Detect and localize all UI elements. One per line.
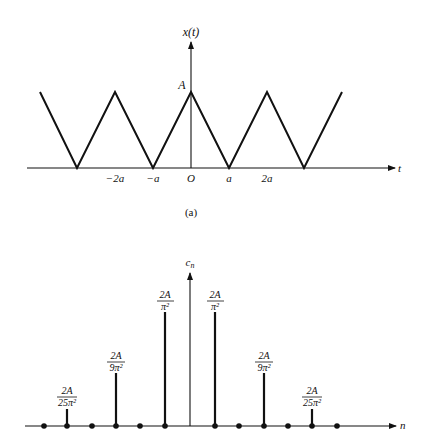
point-n-plus-5 (309, 423, 315, 429)
cn-axis-label: cn (186, 256, 195, 270)
point-n-minus-4 (89, 423, 95, 429)
fraction-numerator: 2A (306, 385, 318, 396)
tick-label-origin: O (187, 172, 195, 184)
point-n-plus-3 (261, 423, 267, 429)
fraction-denominator: π² (211, 301, 220, 312)
amplitude-label: A (177, 78, 186, 92)
figure-canvas: t x(t) A −2a −a O a 2a (a) n cn (0, 0, 428, 431)
point-n-minus-5 (64, 423, 70, 429)
stem-label-n-plus-5: 2A 25π² (302, 385, 322, 408)
point-n-minus-1 (162, 423, 168, 429)
point-n-plus-2 (236, 423, 242, 429)
t-axis-label: t (398, 162, 402, 174)
figure-a-caption: (a) (185, 206, 198, 219)
stem-label-n-minus-5: 2A 25π² (57, 385, 77, 408)
fraction-denominator: 25π² (58, 397, 77, 408)
figure-a-triangle-wave: t x(t) A −2a −a O a 2a (a) (27, 25, 402, 219)
figure-b-line-spectrum: n cn 2A (25, 256, 406, 431)
point-n-plus-4 (285, 423, 291, 429)
tick-label-minus-2a: −2a (106, 172, 125, 184)
point-n-minus-2 (137, 423, 143, 429)
tick-label-minus-a: −a (147, 172, 160, 184)
point-n-minus-6 (41, 423, 47, 429)
n-axis-label: n (400, 419, 406, 431)
point-n-minus-3 (113, 423, 119, 429)
fraction-numerator: 2A (209, 289, 221, 300)
fraction-numerator: 2A (61, 385, 73, 396)
stem-label-n-minus-3: 2A 9π² (107, 350, 125, 373)
fraction-numerator: 2A (159, 289, 171, 300)
fraction-numerator: 2A (110, 350, 122, 361)
fraction-denominator: 9π² (257, 362, 271, 373)
point-n-plus-1 (212, 423, 218, 429)
point-n-plus-6 (334, 423, 340, 429)
fraction-denominator: π² (161, 301, 170, 312)
tick-label-a: a (226, 172, 232, 184)
fraction-numerator: 2A (258, 350, 270, 361)
stem-label-n-minus-1: 2A π² (157, 289, 174, 312)
y-axis-label: x(t) (182, 25, 200, 39)
t-tick-labels: −2a −a O a 2a (106, 172, 273, 184)
stem-label-n-plus-3: 2A 9π² (255, 350, 273, 373)
tick-label-2a: 2a (262, 172, 274, 184)
stem-label-n-plus-1: 2A π² (207, 289, 224, 312)
fraction-denominator: 9π² (109, 362, 123, 373)
fraction-denominator: 25π² (303, 397, 322, 408)
